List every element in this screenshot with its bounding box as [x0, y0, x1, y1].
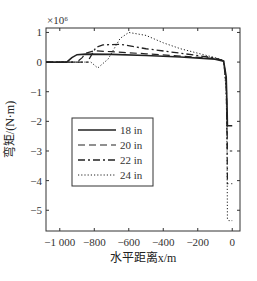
x-axis-label: 水平距离x/m — [110, 250, 177, 265]
x-tick-label: −800 — [83, 236, 106, 248]
y-axis-label: 弯矩/(N·m) — [2, 101, 17, 158]
x-tick-label: −600 — [117, 236, 140, 248]
legend-label: 22 in — [120, 154, 143, 166]
legend: 18 in20 in22 in24 in — [72, 118, 153, 186]
y-tick-label: −5 — [30, 204, 42, 216]
y-multiplier-label: ×10⁶ — [47, 14, 68, 26]
x-tick-label: −400 — [152, 236, 175, 248]
legend-label: 24 in — [120, 169, 143, 181]
y-tick-label: −3 — [30, 145, 42, 157]
legend-label: 18 in — [120, 124, 143, 136]
y-tick-label: −1 — [30, 86, 42, 98]
moment-chart: ×10⁶ −1 000−800−600−400−2000 10−1−2−3−4−… — [0, 0, 257, 281]
y-tick-label: 1 — [37, 26, 43, 38]
y-tick-label: −2 — [30, 115, 42, 127]
x-tick-label: −200 — [186, 236, 209, 248]
legend-label: 20 in — [120, 139, 143, 151]
x-tick-label: −1 000 — [44, 236, 75, 248]
series-line-18-in — [46, 54, 232, 126]
x-tick-label: 0 — [229, 236, 235, 248]
y-tick-label: 0 — [37, 56, 43, 68]
y-tick-label: −4 — [30, 175, 42, 187]
